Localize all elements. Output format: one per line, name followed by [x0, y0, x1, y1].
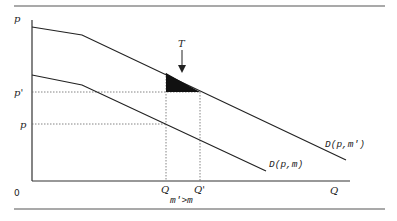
upper-demand-curve — [32, 27, 346, 160]
p-label: p — [20, 119, 27, 130]
lower-demand-curve — [32, 75, 266, 171]
p-prime-label: p' — [14, 87, 23, 98]
x-axis-label: Q — [330, 185, 338, 196]
demand-shift-diagram: p T p' p 0 Q Q' m'>m Q D(p,m') D(p,m) — [0, 0, 397, 221]
origin-label: 0 — [14, 188, 20, 198]
shaded-triangle — [166, 73, 200, 92]
q-label: Q — [161, 184, 169, 195]
y-axis-label: p — [14, 13, 21, 24]
q-prime-label: Q' — [194, 184, 205, 195]
arrow-down-icon — [178, 65, 186, 73]
t-label: T — [178, 38, 186, 49]
lower-demand-label: D(p,m) — [269, 159, 303, 170]
upper-demand-label: D(p,m') — [325, 139, 365, 150]
condition-label: m'>m — [170, 195, 193, 206]
